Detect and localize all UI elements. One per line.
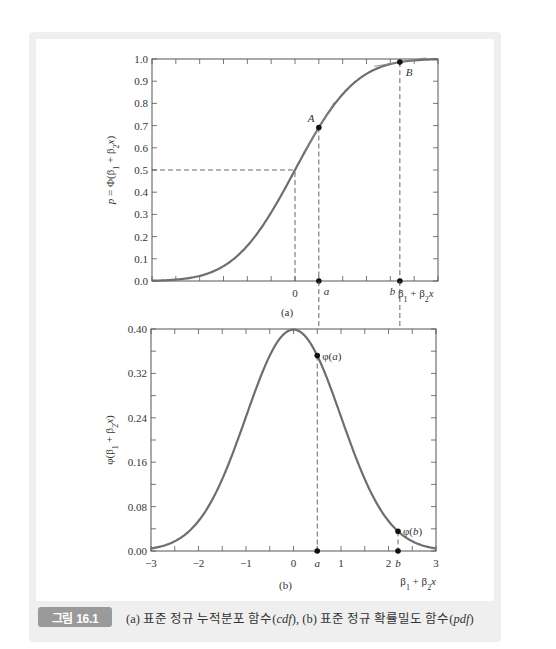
y-tick-label: 0.40 [128,323,148,335]
panel-label: (a) [281,306,294,319]
caption-part: ) [469,612,473,626]
y-tick-label: 0.6 [134,142,148,154]
point-marker [395,529,401,535]
y-tick-label: 0.7 [134,120,148,132]
x-tick-label: 1 [338,557,344,569]
y-tick-label: 0.2 [134,231,148,243]
x-axis-label: β1 + β2x [400,575,436,592]
figure-caption: 그림 16.1 (a) 표준 정규 누적분포 함수(cdf), (b) 표준 정… [38,605,474,629]
y-tick-label: 1.0 [134,53,148,65]
y-tick-label: 0.1 [134,253,148,265]
point-marker [397,59,403,65]
y-tick-label: 0.8 [134,97,148,109]
axis-point-label: a [324,285,330,297]
axis-point-marker [395,548,401,554]
x-tick-label: 0 [291,557,297,569]
figure-label-badge: 그림 16.1 [38,607,112,627]
x-tick-label: 2 [386,557,392,569]
axis-point-label: b [390,285,396,297]
point-label: φ(b) [403,525,423,538]
y-axis-label: φ(β1 + β2x) [103,415,120,465]
x-tick-label: 0 [292,287,298,299]
point-marker [314,353,320,359]
pdf-curve [151,330,436,549]
panel-label: (b) [279,579,292,592]
y-tick-label: 0.9 [134,75,148,87]
axis-point-marker [314,548,320,554]
caption-part: pdf [453,612,469,626]
x-tick-label: −2 [193,557,205,569]
axis-point-label: a [315,557,321,569]
y-tick-label: 0.5 [134,164,148,176]
y-tick-label: 0.24 [128,412,148,424]
y-tick-label: 0.08 [128,501,148,513]
x-tick-label: −3 [145,557,157,569]
caption-part: cdf [277,612,292,626]
caption-text: (a) 표준 정규 누적분포 함수(cdf), (b) 표준 정규 확률밀도 함… [126,608,474,627]
y-tick-label: 0.3 [134,208,148,220]
y-axis-label: p = Φ(β1 + β2x) [104,135,121,205]
caption-part: (a) 표준 정규 누적분포 함수( [126,612,277,626]
x-tick-label: −1 [240,557,252,569]
plot-frame-b [151,329,436,551]
point-marker [316,125,322,131]
point-label-b: B [406,66,413,78]
figure-chart: 0.00.10.20.30.40.50.60.70.80.91.00AaBbβ1… [0,0,556,649]
y-tick-label: 0.32 [128,367,147,379]
axis-point-label: b [395,557,401,569]
point-label: φ(a) [322,350,342,363]
point-label-a: A [307,112,315,124]
x-axis-label: β1 + β2x [398,287,434,304]
y-tick-label: 0.16 [128,456,148,468]
y-tick-label: 0.0 [134,275,148,287]
y-tick-label: 0.4 [134,186,148,198]
y-tick-label: 0.00 [128,545,148,557]
x-tick-label: 3 [433,557,439,569]
caption-part: ), (b) 표준 정규 확률밀도 함수( [292,612,454,626]
